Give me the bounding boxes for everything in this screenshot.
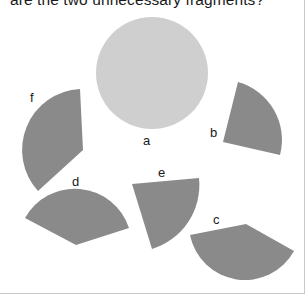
- fragment-d: [25, 189, 129, 245]
- circle-a: [96, 17, 208, 129]
- panel-border-bottom: [0, 293, 305, 294]
- shape-c: c: [190, 212, 294, 280]
- fragment-b: [223, 82, 282, 155]
- label-d: d: [72, 174, 79, 189]
- label-a: a: [143, 133, 151, 148]
- fragment-c: [190, 224, 294, 280]
- shape-e: e: [132, 165, 199, 249]
- label-c: c: [213, 212, 220, 227]
- fragments-figure: a f b d e c: [0, 0, 308, 298]
- fragment-e: [132, 178, 199, 249]
- label-b: b: [210, 125, 217, 140]
- label-f: f: [30, 90, 34, 105]
- panel-border-right: [304, 0, 305, 294]
- shape-a: a: [96, 17, 208, 148]
- puzzle-panel: are the two unnecessary fragments? a f b…: [0, 0, 308, 298]
- label-e: e: [158, 165, 165, 180]
- shape-b: b: [210, 82, 282, 155]
